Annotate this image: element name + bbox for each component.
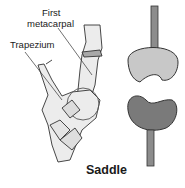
caption-saddle: Saddle [86, 163, 127, 177]
saddle-joint-model-upper [128, 6, 178, 82]
label-trapezium: Trapezium [10, 40, 55, 50]
label-metacarpal: metacarpal [27, 19, 74, 29]
saddle-joint-model-lower [128, 96, 177, 166]
label-first: First [42, 8, 60, 18]
